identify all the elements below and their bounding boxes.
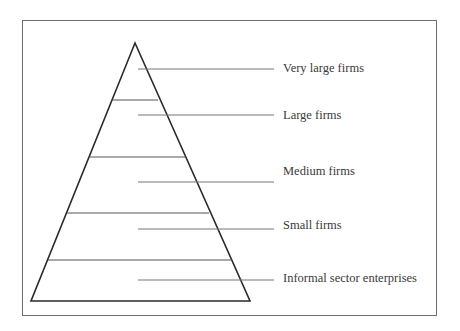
label-medium-firms: Medium firms xyxy=(283,164,355,178)
label-very-large-firms: Very large firms xyxy=(283,61,364,75)
label-informal-sector-enterprises: Informal sector enterprises xyxy=(283,271,417,285)
pyramid-outline xyxy=(31,43,250,301)
label-large-firms: Large firms xyxy=(283,108,341,122)
label-small-firms: Small firms xyxy=(283,218,342,232)
